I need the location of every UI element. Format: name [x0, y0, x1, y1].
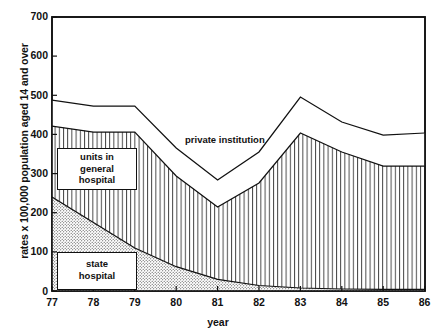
x-tick-82: 82: [244, 296, 274, 308]
x-tick-86: 86: [410, 296, 436, 308]
y-axis-title: rates x 100,000 population aged 14 and o…: [18, 31, 30, 271]
units-label-line-1: units in: [62, 151, 132, 163]
x-tick-85: 85: [368, 296, 398, 308]
units-label-line-3: hospital: [62, 174, 132, 186]
units-label-line-2: general: [62, 163, 132, 175]
x-tick-83: 83: [285, 296, 315, 308]
y-tick-0: 0: [4, 286, 48, 296]
x-tick-84: 84: [327, 296, 357, 308]
annotation-units-in-general-hospital: units in general hospital: [57, 148, 137, 190]
y-tick-700: 700: [4, 11, 48, 21]
x-tick-81: 81: [203, 296, 233, 308]
x-tick-79: 79: [120, 296, 150, 308]
x-axis-title: year: [0, 316, 436, 328]
x-tick-78: 78: [78, 296, 108, 308]
state-label-line-2: hospital: [62, 270, 132, 282]
x-tick-77: 77: [37, 296, 67, 308]
chart-figure: 700 600 500 400 300 200 100 0 77 78 79 8…: [0, 0, 436, 334]
x-tick-80: 80: [161, 296, 191, 308]
state-label-line-1: state: [62, 258, 132, 270]
annotation-state-hospital: state hospital: [57, 252, 137, 290]
annotation-private-institution: private institution: [185, 134, 265, 145]
